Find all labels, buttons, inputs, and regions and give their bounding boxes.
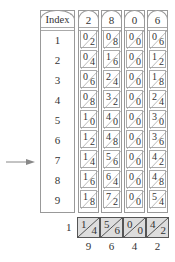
units-digit: 8 xyxy=(90,196,95,207)
units-digit: 0 xyxy=(136,156,141,167)
rod-cell: 7 2 xyxy=(103,190,120,208)
tens-digit: 4 xyxy=(106,111,111,122)
units-digit: 8 xyxy=(113,136,118,147)
result-digit: 6 xyxy=(100,240,123,252)
tens-digit: 0 xyxy=(83,51,88,62)
units-digit: 0 xyxy=(136,136,141,147)
units-digit: 2 xyxy=(90,36,95,47)
tens-digit: 4 xyxy=(150,219,156,230)
tens-digit: 1 xyxy=(152,71,157,82)
rod-cell: 1 2 xyxy=(149,50,166,68)
rod-cell: 0 0 xyxy=(126,90,143,108)
tens-digit: 1 xyxy=(83,191,88,202)
units-digit: 4 xyxy=(90,56,95,67)
rod-cell: 1 6 xyxy=(103,50,120,68)
header-divider xyxy=(41,27,74,31)
tens-digit: 0 xyxy=(106,31,111,42)
rod-cell: 0 8 xyxy=(103,30,120,48)
rod-cell: 0 0 xyxy=(126,30,143,48)
units-digit: 4 xyxy=(90,156,95,167)
digit-rod-2: 2 0 2 0 4 0 6 0 8 1 0 1 2 1 4 1 6 1 8 xyxy=(78,10,99,213)
result-box: 1 4 xyxy=(77,217,100,238)
index-rod: Index 1 2 3 4 5 6 7 8 9 xyxy=(40,10,75,213)
units-digit: 0 xyxy=(136,96,141,107)
rod-cell: 4 8 xyxy=(149,170,166,188)
tens-digit: 5 xyxy=(104,219,110,230)
rod-cell: 4 0 xyxy=(103,110,120,128)
units-digit: 8 xyxy=(113,36,118,47)
tens-digit: 1 xyxy=(83,171,88,182)
rod-cell: 1 8 xyxy=(80,190,97,208)
rod-cell: 6 4 xyxy=(103,170,120,188)
tens-digit: 0 xyxy=(83,91,88,102)
units-digit: 8 xyxy=(90,96,95,107)
units-digit: 6 xyxy=(159,36,164,47)
units-digit: 0 xyxy=(136,76,141,87)
units-digit: 0 xyxy=(138,225,144,236)
rod-cell: 3 0 xyxy=(149,110,166,128)
tens-digit: 0 xyxy=(127,219,133,230)
rod-cell: 2 4 xyxy=(149,90,166,108)
rod-cell: 1 0 xyxy=(80,110,97,128)
units-digit: 8 xyxy=(159,76,164,87)
rod-cell: 0 8 xyxy=(80,90,97,108)
units-digit: 2 xyxy=(90,136,95,147)
digit-rod-8: 8 0 8 1 6 2 4 3 2 4 0 4 8 5 6 6 4 7 2 xyxy=(101,10,122,213)
units-digit: 0 xyxy=(136,176,141,187)
units-digit: 0 xyxy=(136,196,141,207)
units-digit: 6 xyxy=(113,56,118,67)
rod-cell: 0 0 xyxy=(126,130,143,148)
rod-cell: 1 2 xyxy=(80,130,97,148)
tens-digit: 0 xyxy=(152,31,157,42)
units-digit: 8 xyxy=(159,176,164,187)
rod-cell: 1 8 xyxy=(149,70,166,88)
index-number: 9 xyxy=(41,194,74,206)
tens-digit: 4 xyxy=(152,151,157,162)
index-number: 8 xyxy=(41,174,74,186)
tens-digit: 0 xyxy=(83,31,88,42)
units-digit: 0 xyxy=(90,116,95,127)
result-box: 5 6 xyxy=(100,217,123,238)
units-digit: 0 xyxy=(159,116,164,127)
index-number: 1 xyxy=(41,34,74,46)
units-digit: 6 xyxy=(115,225,121,236)
result-digit: 4 xyxy=(123,240,146,252)
index-rod-header: Index xyxy=(40,10,75,27)
tens-digit: 6 xyxy=(106,171,111,182)
rod-cell: 0 0 xyxy=(126,150,143,168)
tens-digit: 2 xyxy=(106,71,111,82)
rod-cell: 0 0 xyxy=(126,50,143,68)
units-digit: 0 xyxy=(113,116,118,127)
tens-digit: 1 xyxy=(83,131,88,142)
rod-header: 6 xyxy=(147,10,168,27)
units-digit: 4 xyxy=(113,76,118,87)
rod-cell: 0 0 xyxy=(126,110,143,128)
tens-digit: 3 xyxy=(152,111,157,122)
units-digit: 6 xyxy=(113,156,118,167)
units-digit: 4 xyxy=(159,196,164,207)
rod-cell: 4 8 xyxy=(103,130,120,148)
tens-digit: 2 xyxy=(152,91,157,102)
units-digit: 2 xyxy=(159,56,164,67)
rod-cell: 0 0 xyxy=(126,190,143,208)
tens-digit: 0 xyxy=(129,191,134,202)
units-digit: 2 xyxy=(113,196,118,207)
tens-digit: 1 xyxy=(106,51,111,62)
index-number-selected: 7 xyxy=(41,154,74,166)
index-number: 2 xyxy=(41,54,74,66)
tens-digit: 0 xyxy=(83,71,88,82)
tens-digit: 0 xyxy=(129,51,134,62)
units-digit: 4 xyxy=(92,225,98,236)
result-digit: 9 xyxy=(77,240,100,252)
tens-digit: 0 xyxy=(129,71,134,82)
index-number: 6 xyxy=(41,134,74,146)
row-pointer-arrow-icon xyxy=(6,157,36,167)
result-digit: 2 xyxy=(146,240,169,252)
tens-digit: 1 xyxy=(152,51,157,62)
units-digit: 6 xyxy=(90,76,95,87)
rod-header: 0 xyxy=(124,10,145,27)
rod-cell: 0 0 xyxy=(126,170,143,188)
digit-rod-6: 6 0 6 1 2 1 8 2 4 3 0 3 6 4 2 4 8 5 4 xyxy=(147,10,168,213)
tens-digit: 1 xyxy=(83,151,88,162)
tens-digit: 0 xyxy=(129,131,134,142)
